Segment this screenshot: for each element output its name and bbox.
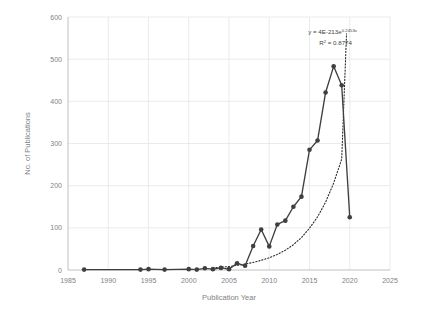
equation-exponent: 0.2453x xyxy=(342,28,358,33)
data-point xyxy=(307,148,312,153)
data-point xyxy=(211,267,216,272)
y-axis-title: No. of Publications xyxy=(23,112,32,175)
data-point xyxy=(339,83,344,88)
equation-prefix: y = 4E-213e xyxy=(308,28,342,35)
data-point xyxy=(243,263,248,268)
data-point xyxy=(331,64,336,69)
y-tick-500: 500 xyxy=(50,56,62,63)
data-point xyxy=(219,266,224,271)
y-tick-labels: 600 500 400 300 200 100 0 xyxy=(50,14,62,274)
data-point xyxy=(347,215,352,220)
y-tick-200: 200 xyxy=(50,182,62,189)
y-tick-100: 100 xyxy=(50,224,62,231)
x-tick-2000: 2000 xyxy=(181,277,197,284)
x-axis-title: Publication Year xyxy=(202,293,256,302)
x-tick-labels: 1985 1990 1995 2000 2005 2010 2015 2020 … xyxy=(60,277,398,284)
data-point xyxy=(275,222,280,227)
data-point xyxy=(146,267,151,272)
y-tick-300: 300 xyxy=(50,140,62,147)
y-tick-400: 400 xyxy=(50,98,62,105)
y-tick-0: 0 xyxy=(58,267,62,274)
data-point xyxy=(315,138,320,143)
data-point xyxy=(227,267,232,272)
x-tick-2010: 2010 xyxy=(261,277,277,284)
data-point xyxy=(267,244,272,249)
y-tick-600: 600 xyxy=(50,14,62,21)
data-point xyxy=(235,261,240,266)
data-point xyxy=(283,218,288,223)
x-tick-1995: 1995 xyxy=(141,277,157,284)
data-point xyxy=(162,267,167,272)
x-tick-1985: 1985 xyxy=(60,277,76,284)
x-tick-2015: 2015 xyxy=(302,277,318,284)
data-point xyxy=(323,90,328,95)
x-tick-2025: 2025 xyxy=(382,277,398,284)
data-point xyxy=(299,194,304,199)
data-point xyxy=(251,244,256,249)
data-point xyxy=(186,267,191,272)
data-point xyxy=(195,267,200,272)
r-squared-value: = 0.8774 xyxy=(326,39,353,46)
data-point xyxy=(203,266,208,271)
data-point xyxy=(138,267,143,272)
x-tick-1990: 1990 xyxy=(100,277,116,284)
x-tick-2020: 2020 xyxy=(342,277,358,284)
x-tick-2005: 2005 xyxy=(221,277,237,284)
chart-svg: 600 500 400 300 200 100 0 1985 1990 1995… xyxy=(0,0,428,312)
publications-per-year-chart: 600 500 400 300 200 100 0 1985 1990 1995… xyxy=(0,0,428,312)
data-point xyxy=(259,227,264,232)
data-point xyxy=(291,204,296,209)
data-point xyxy=(82,267,87,272)
